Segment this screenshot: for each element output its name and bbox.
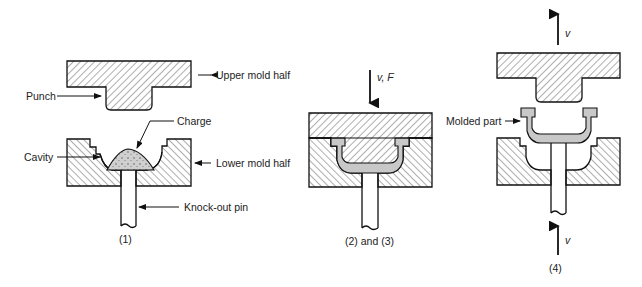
molded-part — [521, 108, 597, 143]
label-punch: Punch — [26, 90, 56, 102]
knockout-pin — [362, 173, 378, 230]
label-molded-part: Molded part — [446, 115, 502, 127]
stage-2-3: v, F (2) and (3) — [309, 70, 432, 247]
upper-mold-raised — [497, 53, 620, 102]
stage-1: Upper mold half Punch Charge Cavity Lowe… — [24, 61, 290, 245]
label-upper-mold-half: Upper mold half — [216, 69, 290, 81]
label-cavity: Cavity — [24, 151, 54, 163]
compression-molding-diagram: Upper mold half Punch Charge Cavity Lowe… — [0, 0, 642, 287]
caption-stage-2-3: (2) and (3) — [345, 235, 394, 247]
label-top-velocity: v — [565, 27, 571, 39]
stage-4: v Molded part v (4) — [446, 14, 620, 274]
knockout-pin-raised — [551, 143, 566, 215]
knockout-pin — [121, 170, 136, 228]
label-bottom-velocity: v — [565, 234, 571, 246]
label-lower-mold-half: Lower mold half — [216, 157, 290, 169]
caption-stage-4: (4) — [549, 262, 562, 274]
label-knockout-pin: Knock-out pin — [184, 201, 248, 213]
charge — [107, 149, 154, 170]
label-charge: Charge — [177, 115, 212, 127]
lower-mold — [497, 138, 620, 185]
label-velocity-force: v, F — [377, 71, 394, 83]
caption-stage-1: (1) — [119, 233, 132, 245]
upper-mold-half — [67, 61, 191, 110]
